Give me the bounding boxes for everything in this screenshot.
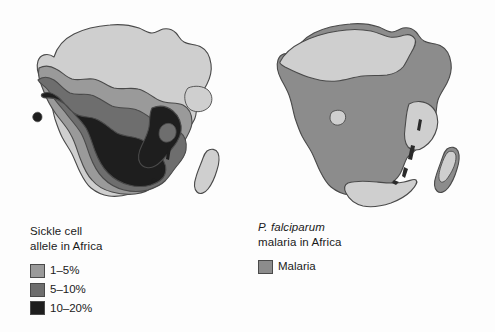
sickle-cell-legend-title: Sickle cellallele in Africa bbox=[30, 224, 103, 254]
legend-swatch-1-5 bbox=[30, 264, 45, 278]
legend-title-line2: malaria in Africa bbox=[258, 236, 342, 248]
sickle-cell-map-svg bbox=[2, 0, 250, 225]
legend-swatch-10-20 bbox=[30, 301, 45, 315]
figure-root: Sickle cellallele in Africa 1–5% 5–10% 1… bbox=[0, 0, 495, 332]
horn-of-africa bbox=[185, 86, 212, 111]
legend-title-line1: Sickle cell bbox=[30, 225, 82, 237]
ethiopian-highlands-no-malaria bbox=[404, 102, 437, 150]
legend-title-species: P. falciparum bbox=[258, 221, 325, 233]
malaria-map-svg bbox=[248, 0, 495, 225]
legend-item-malaria: Malaria bbox=[258, 259, 342, 274]
southern-africa-no-malaria bbox=[345, 179, 417, 206]
malaria-legend: P. falciparummalaria in Africa Malaria bbox=[258, 220, 342, 278]
legend-swatch-5-10 bbox=[30, 283, 45, 297]
legend-label-5-10: 5–10% bbox=[50, 282, 86, 297]
madagascar bbox=[195, 149, 219, 193]
legend-title-line2: allele in Africa bbox=[30, 240, 103, 252]
legend-label-1-5: 1–5% bbox=[50, 263, 79, 278]
legend-label-malaria: Malaria bbox=[278, 259, 316, 274]
sickle-cell-legend: Sickle cellallele in Africa 1–5% 5–10% 1… bbox=[30, 224, 103, 319]
malaria-legend-title: P. falciparummalaria in Africa bbox=[258, 220, 342, 250]
coastal-dot bbox=[33, 112, 42, 122]
legend-item-5-10: 5–10% bbox=[30, 282, 103, 297]
legend-item-1-5: 1–5% bbox=[30, 263, 103, 278]
gulf-of-guinea-patch bbox=[330, 110, 346, 125]
legend-item-10-20: 10–20% bbox=[30, 301, 103, 316]
legend-label-10-20: 10–20% bbox=[50, 301, 92, 316]
legend-swatch-malaria bbox=[258, 260, 273, 274]
malaria-map bbox=[248, 0, 495, 225]
sickle-cell-map bbox=[2, 0, 250, 225]
